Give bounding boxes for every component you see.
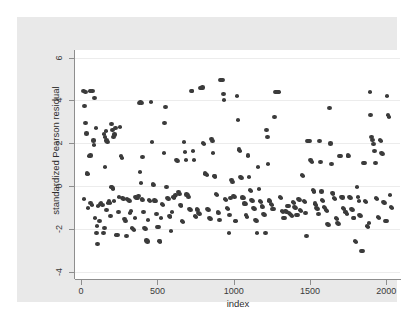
gridline	[75, 186, 400, 187]
x-tick-label: 1000	[214, 286, 254, 296]
x-tick-mark	[234, 280, 235, 285]
scatter-point	[257, 187, 262, 191]
scatter-point	[373, 161, 378, 165]
x-tick-mark	[81, 280, 82, 285]
scatter-point	[183, 150, 188, 154]
scatter-point	[192, 158, 197, 162]
y-tick-mark	[69, 186, 74, 187]
scatter-point	[388, 193, 393, 197]
scatter-point	[292, 201, 297, 205]
scatter-point	[113, 126, 118, 130]
scatter-point	[118, 125, 123, 129]
scatter-point	[286, 204, 291, 208]
scatter-point	[149, 100, 154, 104]
scatter-point	[328, 141, 333, 145]
x-axis-line	[75, 279, 401, 280]
scatter-point	[168, 215, 173, 219]
scatter-point	[213, 174, 218, 178]
scatter-point	[175, 159, 180, 163]
scatter-point	[163, 105, 168, 109]
scatter-point	[371, 142, 376, 146]
scatter-point	[263, 231, 268, 235]
scatter-point	[352, 216, 357, 220]
scatter-point	[140, 198, 145, 202]
scatter-point	[104, 208, 109, 212]
scatter-point	[208, 217, 213, 221]
scatter-point	[197, 212, 202, 216]
scatter-point	[321, 199, 326, 203]
scatter-point	[179, 204, 184, 208]
scatter-point	[340, 195, 345, 199]
scatter-point	[170, 210, 175, 214]
scatter-point	[312, 189, 317, 193]
scatter-point	[139, 101, 144, 105]
scatter-point	[303, 200, 308, 204]
scatter-point	[83, 90, 88, 94]
scatter-point	[94, 126, 99, 130]
scatter-point	[368, 90, 373, 94]
screenshot-root: 6420-2-4 0500100015002000 standardized P…	[0, 0, 414, 319]
scatter-point	[145, 239, 150, 243]
scatter-point	[246, 153, 251, 157]
scatter-point	[162, 121, 167, 125]
scatter-point	[303, 211, 308, 215]
scatter-point	[169, 229, 174, 233]
scatter-point	[387, 115, 392, 119]
scatter-point	[222, 98, 227, 102]
scatter-point	[153, 199, 158, 203]
scatter-point	[154, 212, 159, 216]
gridline	[75, 143, 400, 144]
scatter-point	[112, 132, 117, 136]
scatter-point	[277, 90, 282, 94]
scatter-point	[243, 202, 248, 206]
scatter-point	[88, 153, 93, 157]
scatter-point	[112, 199, 117, 203]
scatter-point	[116, 210, 121, 214]
scatter-point	[177, 192, 182, 196]
scatter-point	[385, 94, 390, 98]
scatter-point	[164, 185, 169, 189]
scatter-point	[103, 165, 108, 169]
scatter-point	[188, 208, 193, 212]
scatter-point	[259, 200, 264, 204]
scatter-point	[227, 213, 232, 217]
scatter-point	[220, 78, 225, 82]
scatter-point	[97, 219, 102, 223]
scatter-point	[390, 206, 395, 210]
scatter-point	[254, 219, 259, 223]
scatter-point	[202, 142, 207, 146]
scatter-point	[86, 206, 91, 210]
gridline	[75, 58, 400, 59]
scatter-point	[127, 199, 132, 203]
scatter-point	[227, 231, 232, 235]
scatter-point	[266, 162, 271, 166]
scatter-point	[367, 221, 372, 225]
scatter-point	[221, 92, 226, 96]
scatter-point	[354, 240, 359, 244]
scatter-point	[190, 89, 195, 93]
scatter-point	[101, 231, 106, 235]
y-tick-mark	[69, 229, 74, 230]
scatter-point	[159, 216, 164, 220]
scatter-point	[181, 220, 186, 224]
scatter-point	[166, 197, 171, 201]
scatter-point	[362, 161, 367, 165]
scatter-point	[83, 121, 88, 125]
plot-region	[75, 50, 400, 279]
x-tick-label: 1500	[290, 286, 330, 296]
scatter-point	[252, 207, 257, 211]
scatter-point	[90, 203, 95, 207]
scatter-point	[358, 214, 363, 218]
scatter-point	[146, 218, 151, 222]
scatter-point	[346, 154, 351, 158]
graph-region: 6420-2-4 0500100015002000 standardized P…	[17, 17, 397, 302]
scatter-point	[215, 193, 220, 197]
x-tick-mark	[310, 280, 311, 285]
scatter-point	[326, 223, 331, 227]
scatter-point	[368, 113, 373, 117]
scatter-point	[375, 197, 380, 201]
scatter-point	[360, 249, 365, 253]
scatter-point	[111, 186, 116, 190]
scatter-point	[90, 89, 95, 93]
scatter-point	[316, 212, 321, 216]
